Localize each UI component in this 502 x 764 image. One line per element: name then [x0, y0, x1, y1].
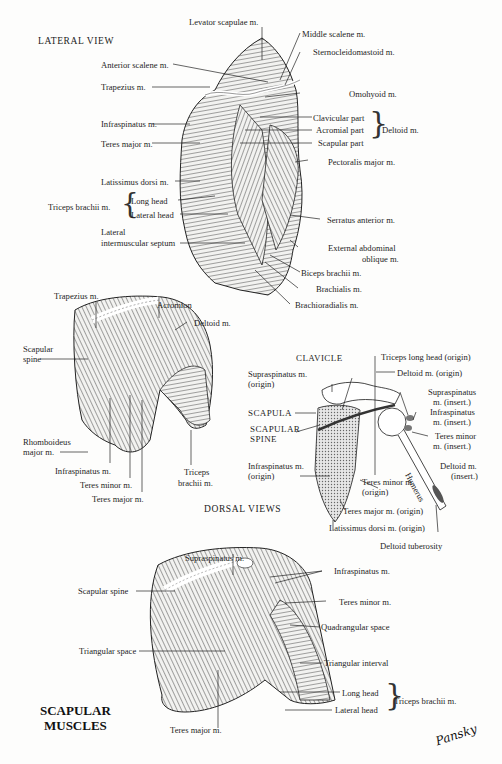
- label-scapular-part: Scapular part: [318, 138, 364, 148]
- label-acromial-part: Acromial part: [316, 125, 364, 135]
- plate-title: SCAPULAR MUSCLES: [40, 703, 111, 733]
- label-infraspinatus-dorsal: Infraspinatus m.: [55, 466, 111, 476]
- label-triangular-interval: Triangular interval: [324, 658, 388, 668]
- label-scapular-spine-bone-1: SCAPULAR: [250, 424, 300, 434]
- label-long-head-lower: Long head: [342, 688, 379, 698]
- label-trapezius-lateral: Trapezius m.: [101, 82, 146, 92]
- label-teres-minor-insert-2: m. (insert.): [433, 441, 471, 451]
- lateral-view-heading: LATERAL VIEW: [38, 36, 114, 46]
- label-teres-major-lateral: Teres major m.: [101, 139, 153, 149]
- plate-title-line-2: MUSCLES: [40, 718, 111, 733]
- label-triceps-dorsal-1: Triceps: [184, 467, 209, 477]
- label-triceps-brachii-lateral: Triceps brachii m.: [48, 202, 110, 212]
- label-teres-major-origin: Teres major m. (origin): [343, 506, 423, 516]
- label-middle-scalene: Middle scalene m.: [302, 29, 365, 39]
- label-lateral-head-lateral: Lateral head: [131, 210, 174, 220]
- label-brachialis: Brachialis m.: [316, 284, 362, 294]
- label-infraspinatus-origin-1: Infraspinatus m.: [248, 461, 304, 471]
- label-scapular-spine-bone-2: SPINE: [250, 434, 277, 444]
- label-infraspinatus-insert-1: Infraspinatus: [430, 407, 475, 417]
- label-deltoid-origin: Deltoid m. (origin): [397, 368, 462, 378]
- dorsal-views-heading: DORSAL VIEWS: [204, 504, 281, 514]
- label-pectoralis-major: Pectoralis major m.: [328, 157, 395, 167]
- label-infraspinatus-lower: Infraspinatus m.: [334, 566, 390, 576]
- label-supraspinatus-origin-2: (origin): [248, 379, 274, 389]
- label-quadrangular-space: Quadrangular space: [321, 622, 389, 632]
- label-teres-minor-insert-1: Teres minor: [435, 431, 476, 441]
- label-lateral-septum-1: Lateral: [101, 227, 125, 237]
- label-scapular-spine-2: spine: [23, 354, 41, 364]
- label-rhomboideus-1: Rhomboideus: [23, 437, 71, 447]
- label-triangular-space: Triangular space: [79, 646, 136, 656]
- label-deltoid-lateral: Deltoid m.: [382, 125, 419, 135]
- anatomy-plate: LATERAL VIEW Levator scapulae m. Middle …: [0, 0, 502, 764]
- label-teres-major-lower: Teres major m.: [170, 725, 222, 735]
- label-teres-minor-lower: Teres minor m.: [339, 597, 391, 607]
- label-supraspinatus-insert-2: m. (insert.): [433, 397, 471, 407]
- label-rhomboideus-2: major m.: [23, 447, 54, 457]
- plate-title-line-1: SCAPULAR: [40, 703, 111, 718]
- dorsal-upper-figure: [74, 296, 213, 452]
- label-deltoid-insert-2: (insert.): [451, 471, 478, 481]
- label-supraspinatus-insert-1: Supraspinatus: [428, 387, 476, 397]
- label-brachioradialis: Brachioradialis m.: [295, 300, 358, 310]
- label-external-oblique-2: oblique m.: [362, 254, 399, 264]
- label-infraspinatus-lateral: Infraspinatus m.: [101, 119, 157, 129]
- label-anterior-scalene: Anterior scalene m.: [101, 60, 169, 70]
- label-long-head-lateral: Long head: [131, 196, 168, 206]
- dorsal-lower-figure: [150, 548, 335, 712]
- label-external-oblique-1: External abdominal: [328, 243, 396, 253]
- label-levator-scapulae: Levator scapulae m.: [189, 17, 258, 27]
- label-trapezius-dorsal: Trapezius m.: [54, 291, 99, 301]
- label-supraspinatus-origin-1: Supraspinatus m.: [248, 369, 307, 379]
- scapula-bone-diagram: [315, 382, 446, 522]
- label-lateral-head-lower: Lateral head: [335, 705, 378, 715]
- label-deltoid-insert-1: Deltoid m.: [440, 461, 477, 471]
- label-biceps-brachii: Biceps brachii m.: [301, 268, 361, 278]
- label-lateral-septum-2: intermuscular septum: [101, 238, 175, 248]
- label-latissimus-dorsi: Latissimus dorsi m.: [101, 177, 169, 187]
- label-supraspinatus-lower: Supraspinatus m.: [185, 553, 244, 563]
- label-latissimus-origin: Latissimus dorsi m. (origin): [329, 523, 425, 533]
- label-triceps-brachii-lower: Triceps brachii m.: [394, 696, 456, 706]
- label-teres-major-dorsal: Teres major m.: [92, 494, 144, 504]
- label-infraspinatus-origin-2: (origin): [248, 471, 274, 481]
- label-triceps-long-head-origin: Triceps long head (origin): [381, 352, 471, 362]
- label-triceps-dorsal-2: brachii m.: [178, 478, 213, 488]
- label-teres-minor-dorsal: Teres minor m.: [80, 480, 132, 490]
- label-clavicular-part: Clavicular part: [313, 113, 364, 123]
- label-teres-minor-origin-1: Teres minor m.: [362, 477, 414, 487]
- label-sternocleidomastoid: Sternocleidomastoid m.: [313, 47, 395, 57]
- label-teres-minor-origin-2: (origin): [362, 487, 388, 497]
- label-scapular-spine-1: Scapular: [23, 344, 53, 354]
- label-scapular-spine-lower: Scapular spine: [78, 586, 128, 596]
- label-scapula: SCAPULA: [248, 408, 292, 418]
- label-acromion: Acromion: [157, 300, 192, 310]
- label-omohyoid: Omohyoid m.: [349, 89, 397, 99]
- label-infraspinatus-insert-2: m. (insert.): [433, 417, 471, 427]
- label-serratus-anterior: Serratus anterior m.: [327, 215, 395, 225]
- label-deltoid-tuberosity: Deltoid tuberosity: [380, 541, 442, 551]
- label-deltoid-dorsal: Deltoid m.: [194, 318, 231, 328]
- label-clavicle: CLAVICLE: [296, 353, 343, 363]
